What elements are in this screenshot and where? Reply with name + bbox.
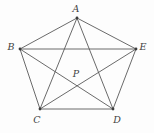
diagram-svg: ABCDEP bbox=[0, 0, 154, 133]
vertex-dot-A bbox=[76, 17, 79, 20]
segment-AB bbox=[20, 18, 77, 49]
segment-AD bbox=[77, 18, 113, 109]
segments-group bbox=[20, 18, 136, 109]
vertex-label-D: D bbox=[112, 114, 121, 125]
segment-DE bbox=[113, 49, 136, 109]
segment-AC bbox=[40, 18, 77, 109]
vertex-dot-D bbox=[112, 108, 115, 111]
dots-group bbox=[19, 17, 138, 111]
vertex-dot-B bbox=[19, 48, 22, 51]
vertex-label-P: P bbox=[72, 68, 80, 79]
segment-CE bbox=[40, 49, 136, 109]
vertex-dot-C bbox=[39, 108, 42, 111]
segment-BD bbox=[20, 49, 113, 109]
vertex-label-C: C bbox=[33, 114, 41, 125]
labels-group: ABCDEP bbox=[7, 3, 147, 125]
vertex-label-A: A bbox=[72, 3, 80, 14]
geometry-diagram: ABCDEP bbox=[0, 0, 154, 133]
vertex-label-E: E bbox=[139, 41, 147, 52]
vertex-label-B: B bbox=[7, 41, 15, 52]
vertex-dot-E bbox=[135, 48, 138, 51]
segment-BC bbox=[20, 49, 40, 109]
segment-AE bbox=[77, 18, 136, 49]
